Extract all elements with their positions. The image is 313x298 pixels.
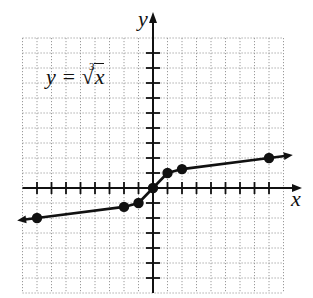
function-label: y =3 √x [46,64,104,90]
data-point [133,198,143,208]
x-axis-label: x [291,186,301,212]
data-point [32,213,42,223]
y-axis-arrow-icon [149,12,157,23]
curve-left-arrow-icon [17,215,26,223]
data-point [119,202,129,212]
radical-index: 3 [89,60,95,72]
data-point [162,168,172,178]
radicand: x [94,63,105,89]
cube-root-graph [0,0,313,298]
y-axis-label: y [138,6,148,32]
data-point [177,164,187,174]
curve-right-arrow-icon [283,152,292,160]
data-point [148,183,158,193]
function-lhs: y = [46,64,76,89]
data-point [264,153,274,163]
